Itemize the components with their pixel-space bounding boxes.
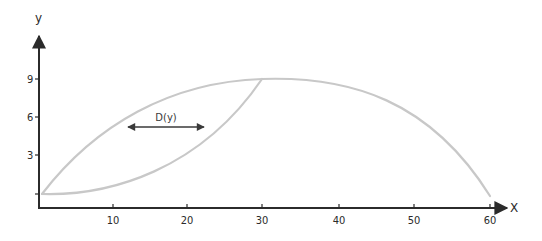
x-tick-label: 20	[181, 214, 194, 227]
x-tick-label: 50	[408, 214, 421, 227]
outer-arc-curve	[42, 79, 490, 196]
inner-curve	[42, 79, 262, 194]
y-tick-label: 9	[27, 73, 33, 86]
y-axis: y 9 6 3	[27, 11, 42, 209]
x-tick-label: 60	[484, 214, 497, 227]
y-tick-label: 6	[27, 111, 33, 124]
x-axis-label: X	[510, 201, 518, 215]
d-of-y-annotation: D(y)	[128, 112, 204, 127]
x-tick-label: 40	[333, 214, 346, 227]
y-tick-label: 3	[27, 149, 33, 162]
x-tick-label: 10	[107, 214, 120, 227]
x-axis: X 10 20 30 40 50 60	[39, 201, 518, 227]
annotation-label: D(y)	[155, 112, 177, 123]
chart-canvas: y 9 6 3 X 10 20 30 40 50 60 D(y)	[0, 0, 542, 241]
x-tick-label: 30	[256, 214, 269, 227]
y-axis-label: y	[35, 11, 42, 25]
